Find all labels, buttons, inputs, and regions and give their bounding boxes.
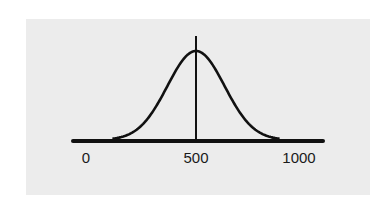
x-tick-label-0: 0 xyxy=(82,149,90,166)
x-tick-label-500: 500 xyxy=(183,149,208,166)
bell-curve-chart xyxy=(0,0,387,206)
x-tick-label-1000: 1000 xyxy=(282,149,315,166)
